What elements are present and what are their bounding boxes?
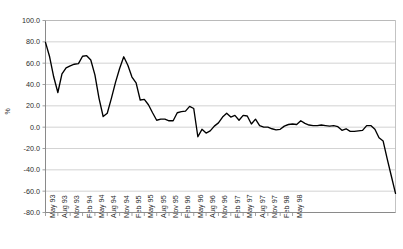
- data-series-line: [46, 42, 396, 193]
- plot-border: [46, 21, 396, 213]
- chart-container: % 100.080.060.040.020.00.0-20.0-40.0-60.…: [0, 0, 403, 249]
- plot-area: [0, 0, 403, 249]
- x-axis-ticks: [43, 21, 293, 217]
- gridlines: [46, 21, 396, 213]
